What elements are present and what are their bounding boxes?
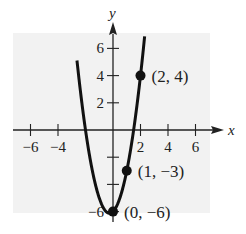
x-tick-label: 2 bbox=[137, 139, 145, 155]
data-point bbox=[108, 207, 118, 217]
x-tick-label: −6 bbox=[23, 139, 39, 155]
y-tick-label: 4 bbox=[97, 68, 105, 84]
x-tick-label: 6 bbox=[192, 139, 200, 155]
y-axis-label: y bbox=[107, 5, 116, 21]
y-tick-label: 6 bbox=[97, 40, 105, 56]
point-label: (0, −6) bbox=[124, 203, 170, 222]
x-axis-label: x bbox=[227, 122, 235, 138]
y-tick-label: 2 bbox=[97, 95, 105, 111]
point-label: (2, 4) bbox=[152, 67, 189, 86]
x-tick-label: 4 bbox=[164, 139, 172, 155]
point-label: (1, −3) bbox=[138, 162, 184, 181]
x-tick-label: −4 bbox=[50, 139, 66, 155]
plot-background bbox=[13, 33, 210, 213]
data-point bbox=[136, 71, 146, 81]
parabola-chart: xy−6−4246642−6(2, 4)(1, −3)(0, −6) bbox=[0, 0, 246, 234]
data-point bbox=[122, 166, 132, 176]
